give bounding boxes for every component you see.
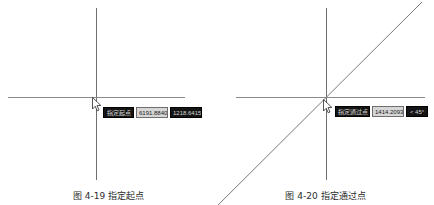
crosshair-cursor-icon xyxy=(92,97,103,112)
crosshair-cursor-icon xyxy=(323,99,334,114)
drawing-canvas-right[interactable]: 指定通过点 1414.2093 < 45° xyxy=(217,0,434,188)
figure-caption-right: 图 4-20 指定通过点 xyxy=(217,190,434,205)
drawing-canvas-left[interactable]: 指定起点 6191.8840 1218.6415 xyxy=(0,0,217,188)
horizontal-axis-line xyxy=(236,97,425,98)
dynamic-input-length[interactable]: 1414.2093 xyxy=(372,106,404,117)
vertical-axis-line xyxy=(96,8,97,180)
figure-pair-page: 指定起点 6191.8840 1218.6415 图 4-19 指定起点 指定通… xyxy=(0,0,434,205)
figure-caption-left: 图 4-19 指定起点 xyxy=(0,190,217,205)
dynamic-input-prompt[interactable]: 指定起点 xyxy=(103,107,134,118)
dynamic-input-length[interactable]: 6191.8840 xyxy=(136,107,168,118)
dynamic-input-prompt[interactable]: 指定通过点 xyxy=(335,106,370,117)
figure-left: 指定起点 6191.8840 1218.6415 图 4-19 指定起点 xyxy=(0,0,217,205)
dynamic-input-coordinate[interactable]: 1218.6415 xyxy=(170,107,202,118)
dynamic-input-angle[interactable]: < 45° xyxy=(406,106,428,117)
vertical-axis-line xyxy=(326,8,327,180)
figure-right: 指定通过点 1414.2093 < 45° 图 4-20 指定通过点 xyxy=(217,0,434,205)
